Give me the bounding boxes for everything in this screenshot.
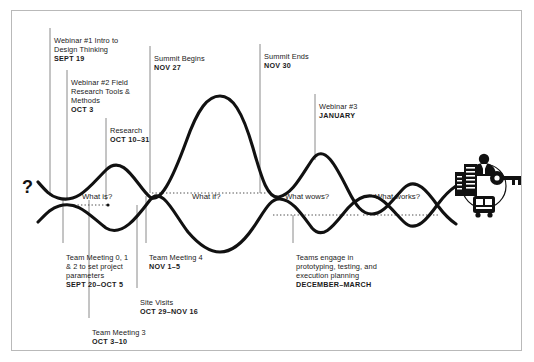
label-summit-ends: Summit Ends NOV 30	[264, 43, 354, 79]
label-team-meeting-4-date: NOV 1–5	[149, 262, 239, 271]
phase-what-wows: What wows?	[285, 192, 329, 201]
label-site-visits-text: Site Visits	[140, 298, 173, 307]
label-webinar-1-text: Webinar #1 Intro to Design Thinking	[54, 36, 118, 54]
label-teams-engage-date: DECEMBER–MARCH	[296, 280, 406, 289]
label-webinar-1-date: SEPT 19	[54, 54, 144, 63]
label-team-meeting-3-date: OCT 3–10	[92, 337, 182, 346]
label-webinar-3-text: Webinar #3	[319, 102, 357, 111]
label-team-meeting-3: Team Meeting 3 OCT 3–10	[92, 319, 182, 355]
label-research: Research OCT 10–31	[110, 117, 180, 153]
label-research-date: OCT 10–31	[110, 135, 180, 144]
label-team-meeting-012-text: Team Meeting 0, 1 & 2 to set project par…	[66, 253, 128, 280]
label-summit-ends-text: Summit Ends	[264, 52, 309, 61]
label-webinar-2-date: OCT 3	[71, 105, 149, 114]
phase-what-works: What works?	[375, 192, 420, 201]
label-summit-ends-date: NOV 30	[264, 61, 354, 70]
dotted-endpoint-dot	[106, 203, 109, 206]
building-icon	[455, 164, 477, 196]
label-webinar-3-date: JANUARY	[319, 111, 409, 120]
icon-cluster	[455, 154, 521, 218]
label-webinar-3: Webinar #3 JANUARY	[319, 93, 409, 129]
label-webinar-2-text: Webinar #2 Field Research Tools & Method…	[71, 78, 130, 105]
label-team-meeting-4: Team Meeting 4 NOV 1–5	[149, 244, 239, 280]
label-team-meeting-4-text: Team Meeting 4	[149, 253, 203, 262]
label-teams-engage-text: Teams engage in prototyping, testing, an…	[296, 253, 377, 280]
label-research-text: Research	[110, 126, 142, 135]
label-webinar-2: Webinar #2 Field Research Tools & Method…	[71, 69, 149, 124]
phase-what-if: What if?	[192, 192, 221, 201]
diagram-canvas: ? Webinar #1 Intro to Design Thinking SE…	[0, 0, 534, 362]
label-site-visits-date: OCT 29–NOV 16	[140, 307, 240, 316]
label-team-meeting-012-date: SEPT 20–OCT 5	[66, 280, 146, 289]
label-webinar-1: Webinar #1 Intro to Design Thinking SEPT…	[54, 27, 144, 72]
question-mark-glyph: ?	[22, 178, 33, 196]
label-summit-begins: Summit Begins NOV 27	[154, 45, 244, 81]
label-team-meeting-012: Team Meeting 0, 1 & 2 to set project par…	[66, 244, 146, 299]
label-teams-engage: Teams engage in prototyping, testing, an…	[296, 244, 406, 299]
label-summit-begins-text: Summit Begins	[154, 54, 205, 63]
label-summit-begins-date: NOV 27	[154, 63, 244, 72]
bus-icon	[473, 196, 495, 218]
phase-what-is: What is?	[82, 192, 112, 201]
label-team-meeting-3-text: Team Meeting 3	[92, 328, 146, 337]
